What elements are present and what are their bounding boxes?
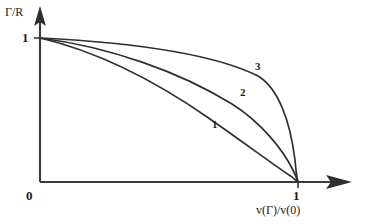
plot-canvas <box>0 0 369 224</box>
curve-label-3: 3 <box>255 61 261 72</box>
y-axis-tick-label-1: 1 <box>22 31 29 44</box>
x-axis-tick-label-1: 1 <box>293 189 300 202</box>
curve-label-1: 1 <box>212 119 218 130</box>
y-axis-title: Γ/R <box>5 6 23 18</box>
x-axis-title: v(Γ)/v(0) <box>256 204 300 216</box>
chart-figure: Γ/R v(Γ)/v(0) 1 0 1 1 2 3 <box>0 0 369 224</box>
axes-group <box>34 6 352 189</box>
origin-tick-label: 0 <box>26 189 33 202</box>
curve-label-2: 2 <box>240 87 246 98</box>
